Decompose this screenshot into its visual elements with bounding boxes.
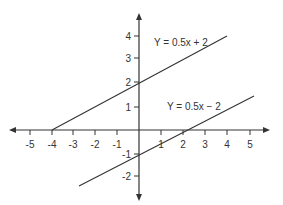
y-tick-label: 2 <box>125 77 131 88</box>
y-tick-label: -1 <box>122 149 131 160</box>
y-tick-label: 1 <box>125 102 131 113</box>
y-axis-down-arrow-icon <box>136 194 142 201</box>
y-axis-up-arrow-icon <box>136 13 142 20</box>
x-ticks <box>30 130 250 135</box>
coordinate-plane: -5 -4 -3 -2 -1 1 2 3 4 5 4 3 2 1 -1 -2 Y… <box>0 0 283 205</box>
y-tick-label: 4 <box>125 31 131 42</box>
x-tick-label: -1 <box>113 139 122 150</box>
y-tick-label: 3 <box>125 53 131 64</box>
x-tick-label: 3 <box>202 139 208 150</box>
equation-label-line2: Y = 0.5x − 2 <box>167 101 221 112</box>
x-tick-label: 2 <box>180 139 186 150</box>
y-tick-label: -2 <box>122 171 131 182</box>
x-tick-label: -3 <box>69 139 78 150</box>
x-tick-label: -2 <box>91 139 100 150</box>
equation-label-line1: Y = 0.5x + 2 <box>154 37 208 48</box>
x-tick-label: -5 <box>26 139 35 150</box>
x-axis-left-arrow-icon <box>9 127 16 133</box>
x-tick-label: 4 <box>224 139 230 150</box>
x-tick-label: -4 <box>48 139 57 150</box>
x-tick-label: 5 <box>247 139 253 150</box>
x-axis-right-arrow-icon <box>263 127 270 133</box>
